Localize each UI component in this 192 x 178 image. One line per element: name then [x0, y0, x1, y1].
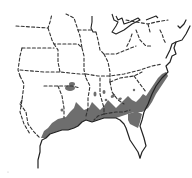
- lake-ontario: [146, 16, 158, 20]
- inland-patch: [69, 82, 75, 86]
- inland-patch: [94, 92, 97, 97]
- inland-patch: [133, 89, 135, 91]
- lake-huron-erie: [112, 14, 140, 34]
- species-range: [41, 72, 168, 138]
- inland-patch: [105, 99, 108, 102]
- speck: [7, 171, 8, 172]
- map-canvas: [0, 0, 192, 178]
- range-map: [0, 0, 192, 178]
- inland-patch: [103, 90, 106, 94]
- inland-patch: [61, 109, 64, 112]
- gulf-coast-range: [41, 72, 168, 138]
